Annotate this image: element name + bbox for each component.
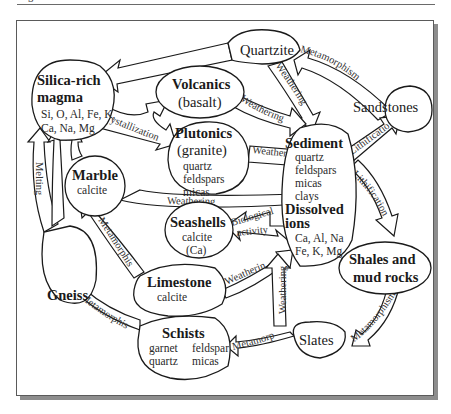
- svg-text:micas: micas: [183, 186, 210, 198]
- svg-text:Weathering: Weathering: [277, 265, 288, 314]
- node-silica-rich-magma: Silica-rich magma Si, O, Al, Fe, K, Ca, …: [32, 60, 116, 140]
- svg-text:Silica-rich: Silica-rich: [37, 72, 101, 88]
- node-schists: Schists garnet quartz feldspar micas: [138, 316, 230, 379]
- node-slates: Slates: [293, 322, 345, 358]
- rock-cycle-diagram: Melting Metamorphism Weathering Crystall…: [0, 0, 451, 414]
- svg-text:Fe, K, Mg: Fe, K, Mg: [295, 245, 343, 258]
- node-limestone: Limestone calcite: [134, 264, 226, 316]
- svg-text:magma: magma: [37, 89, 84, 105]
- svg-text:calcite: calcite: [157, 291, 187, 303]
- svg-text:Quartzite: Quartzite: [240, 42, 294, 58]
- svg-text:micas: micas: [295, 177, 322, 189]
- svg-text:Volcanics: Volcanics: [172, 76, 231, 92]
- svg-text:feldspars: feldspars: [295, 164, 337, 177]
- svg-text:Plutonics: Plutonics: [175, 125, 233, 141]
- svg-text:quartz: quartz: [183, 160, 212, 173]
- svg-text:Limestone: Limestone: [147, 274, 212, 290]
- edge-sediment-to-seashells: Biological activity: [226, 205, 290, 242]
- svg-text:quartz: quartz: [295, 151, 324, 164]
- node-quartzite: Quartzite: [228, 30, 300, 64]
- svg-text:feldspar: feldspar: [192, 342, 229, 355]
- node-marble: Marble calcite: [65, 156, 125, 216]
- node-gneiss: Gneiss: [42, 226, 96, 303]
- svg-text:Ca, Al, Na: Ca, Al, Na: [295, 232, 344, 245]
- svg-text:ions: ions: [285, 215, 310, 231]
- svg-text:calcite: calcite: [77, 184, 107, 196]
- svg-text:(granite): (granite): [177, 142, 227, 159]
- svg-text:garnet: garnet: [149, 342, 179, 355]
- edge-sediment-to-shales: Lithification: [350, 160, 398, 236]
- svg-text:calcite: calcite: [182, 231, 212, 243]
- svg-text:Sandstones: Sandstones: [353, 99, 419, 115]
- svg-text:Schists: Schists: [162, 325, 205, 341]
- node-sediment: Sediment quartz feldspars micas clays Di…: [282, 124, 356, 266]
- edge-slates-to-sediment: Weathering: [266, 254, 290, 326]
- svg-text:Melting: Melting: [0, 0, 34, 2]
- svg-text:mud rocks: mud rocks: [353, 269, 419, 285]
- node-shales-and-mud-rocks: Shales and mud rocks: [339, 242, 431, 294]
- node-seashells: Seashells calcite (Ca): [165, 202, 233, 258]
- svg-text:(basalt): (basalt): [178, 94, 222, 111]
- svg-text:Seashells: Seashells: [170, 214, 226, 230]
- svg-text:Melting: Melting: [34, 162, 45, 196]
- svg-text:Ca, Na, Mg: Ca, Na, Mg: [41, 122, 95, 135]
- svg-text:feldspars: feldspars: [183, 173, 225, 186]
- svg-text:Gneiss: Gneiss: [47, 287, 88, 303]
- node-plutonics: Plutonics (granite) quartz feldspars mic…: [168, 122, 249, 198]
- svg-text:Marble: Marble: [72, 167, 118, 183]
- svg-text:(Ca): (Ca): [186, 244, 207, 257]
- svg-text:Si, O, Al, Fe, K,: Si, O, Al, Fe, K,: [41, 108, 116, 121]
- svg-text:Sediment: Sediment: [285, 135, 343, 151]
- svg-text:micas: micas: [192, 355, 219, 367]
- svg-text:Slates: Slates: [299, 332, 334, 348]
- svg-text:Shales and: Shales and: [349, 251, 416, 267]
- svg-text:quartz: quartz: [149, 355, 178, 368]
- node-volcanics: Volcanics (basalt): [156, 66, 244, 118]
